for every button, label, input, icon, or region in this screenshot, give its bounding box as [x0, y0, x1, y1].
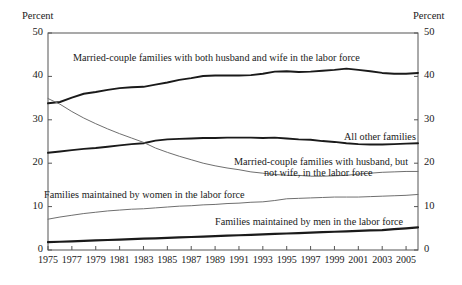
- y-axis-tick-label-right-10: 10: [424, 200, 446, 211]
- y-axis-tick-label-left-30: 30: [21, 113, 43, 124]
- annot-both-spouses: Married-couple families with both husban…: [73, 52, 360, 64]
- y-axis-tick-label-left-50: 50: [21, 26, 43, 37]
- line-chart-plot: [0, 0, 462, 285]
- annot-husband-only-line2: not wife, in the labor force: [264, 167, 373, 179]
- annot-husband-only-line1: Married-couple families with husband, bu…: [234, 156, 408, 168]
- chart-container: Percent Percent 505040403030202010100019…: [0, 0, 462, 285]
- annot-women: Families maintained by women in the labo…: [44, 189, 245, 201]
- y-axis-tick-label-right-30: 30: [424, 113, 446, 124]
- y-axis-tick-label-left-0: 0: [21, 243, 43, 254]
- annot-all-other: All other families: [344, 131, 416, 143]
- y-axis-tick-label-right-40: 40: [424, 69, 446, 80]
- annot-men: Families maintained by men in the labor …: [215, 216, 403, 228]
- y-axis-tick-label-right-50: 50: [424, 26, 446, 37]
- y-axis-tick-label-left-40: 40: [21, 69, 43, 80]
- y-axis-tick-label-left-20: 20: [21, 156, 43, 167]
- x-axis-tick-label-2005: 2005: [389, 254, 423, 265]
- series-line-4: [48, 227, 418, 242]
- y-axis-tick-label-left-10: 10: [21, 200, 43, 211]
- y-axis-tick-label-right-0: 0: [424, 243, 446, 254]
- series-line-0: [48, 69, 418, 104]
- y-axis-tick-label-right-20: 20: [424, 156, 446, 167]
